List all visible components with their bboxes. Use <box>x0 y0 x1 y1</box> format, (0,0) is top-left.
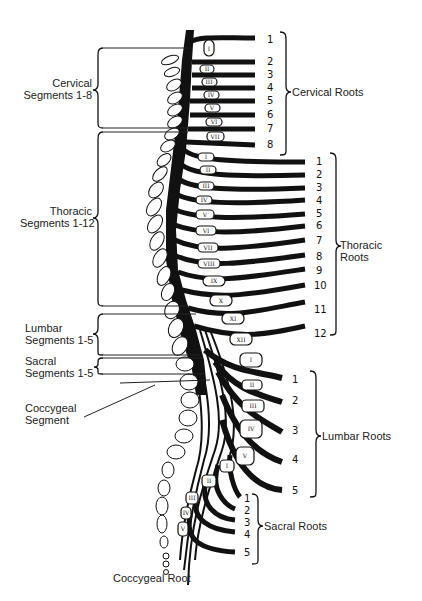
svg-text:II: II <box>207 477 212 484</box>
svg-text:V: V <box>202 211 208 218</box>
sacral-segments-label-line1: Sacral <box>25 355 93 367</box>
lumbar-root-number: 5 <box>292 486 298 496</box>
lumbar-segments-label-line1: Lumbar <box>25 322 93 334</box>
left-braces <box>93 48 103 374</box>
lumbar-segments-label-line2: Segments 1-5 <box>25 334 93 346</box>
cervical-root-number: 5 <box>267 96 273 106</box>
coccygeal-segment-label: Coccygeal Segment <box>25 402 76 426</box>
cervical-root-number: 2 <box>267 57 273 67</box>
svg-text:VII: VII <box>202 244 213 251</box>
svg-text:XII: XII <box>236 336 246 343</box>
sacral-root-number: 1 <box>244 494 250 504</box>
cervical-segments-label: Cervical Segments 1-8 <box>20 77 92 101</box>
thoracic-root-number: 7 <box>316 236 322 246</box>
cervical-roots <box>186 38 255 145</box>
svg-text:III: III <box>205 78 213 85</box>
lumbar-segments-label: Lumbar Segments 1-5 <box>25 322 93 346</box>
cervical-root-number: 3 <box>267 70 273 80</box>
svg-text:II: II <box>206 166 211 173</box>
svg-text:II: II <box>205 65 210 72</box>
lumbar-root-number: 4 <box>292 455 298 465</box>
thoracic-root-number: 6 <box>316 221 322 231</box>
thoracic-roots-label-line1: Thoracic <box>340 239 382 251</box>
lumbar-root-number: 1 <box>292 375 298 385</box>
cervical-root-number: 7 <box>267 124 273 134</box>
cervical-roots-label: Cervical Roots <box>292 86 364 98</box>
svg-text:V: V <box>242 452 248 459</box>
coccygeal-segment-label-line1: Coccygeal <box>25 402 76 414</box>
cervical-root-number: 1 <box>267 35 273 45</box>
sacral-root-number: 3 <box>244 518 250 528</box>
thoracic-root-number: 5 <box>316 209 322 219</box>
thoracic-root-number: 4 <box>316 196 322 206</box>
thoracic-roots-label: Thoracic Roots <box>340 239 382 263</box>
thoracic-root-number: 10 <box>314 281 327 291</box>
sacral-segments-label: Sacral Segments 1-5 <box>25 355 93 379</box>
svg-text:III: III <box>202 182 210 189</box>
svg-text:IX: IX <box>211 277 218 284</box>
sacral-root-number: 4 <box>244 530 250 540</box>
lumbar-root-number: 3 <box>292 426 298 436</box>
svg-text:II: II <box>250 381 255 388</box>
svg-text:VIII: VIII <box>202 260 215 267</box>
svg-text:V: V <box>209 104 215 111</box>
thoracic-root-number: 1 <box>316 157 322 167</box>
thoracic-root-number: 11 <box>314 305 327 315</box>
svg-text:III: III <box>249 402 257 409</box>
svg-text:IV: IV <box>183 509 190 516</box>
thoracic-segments-label-line2: Segments 1-12 <box>20 217 92 229</box>
cervical-root-number: 4 <box>267 83 273 93</box>
cervical-segments-label-line1: Cervical <box>20 77 92 89</box>
thoracic-roots-label-line2: Roots <box>340 251 382 263</box>
cervical-root-number: 8 <box>267 140 273 150</box>
svg-text:III: III <box>188 494 196 501</box>
thoracic-root-number: 8 <box>316 252 322 262</box>
svg-text:IV: IV <box>208 91 215 98</box>
coccygeal-segment-label-line2: Segment <box>25 414 76 426</box>
lumbar-roots-label: Lumbar Roots <box>322 430 391 442</box>
sacral-root-number: 5 <box>244 548 250 558</box>
thoracic-roots <box>175 150 305 334</box>
svg-text:VII: VII <box>209 133 220 140</box>
svg-text:VI: VI <box>210 118 218 125</box>
coccygeal-root-label: Coccygeal Root <box>113 572 191 584</box>
sacral-root-number: 2 <box>244 506 250 516</box>
thoracic-root-number: 9 <box>316 266 322 276</box>
thoracic-segments-label: Thoracic Segments 1-12 <box>20 205 92 229</box>
lumbar-root-number: 2 <box>292 396 298 406</box>
svg-text:VI: VI <box>202 227 210 234</box>
sacral-segments-label-line2: Segments 1-5 <box>25 367 93 379</box>
sacral-roots-label: Sacral Roots <box>264 520 327 532</box>
svg-text:IV: IV <box>201 196 208 203</box>
svg-text:IV: IV <box>248 425 255 432</box>
thoracic-root-number: 2 <box>316 170 322 180</box>
svg-text:XI: XI <box>230 315 237 322</box>
thoracic-root-number: 3 <box>316 183 322 193</box>
thoracic-segments-label-line1: Thoracic <box>20 205 92 217</box>
cervical-segments-label-line2: Segments 1-8 <box>20 89 92 101</box>
svg-text:V: V <box>180 525 186 532</box>
thoracic-root-number: 12 <box>314 329 327 339</box>
cervical-root-number: 6 <box>267 110 273 120</box>
svg-text:X: X <box>219 297 224 304</box>
